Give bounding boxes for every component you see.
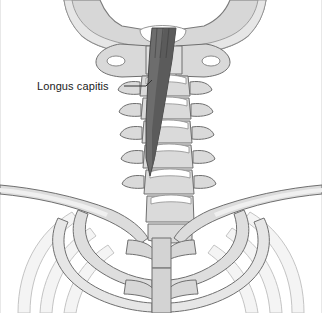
cartilage-left-1: [126, 240, 154, 260]
sternum-body: [152, 268, 171, 313]
sternum-manubrium: [152, 238, 171, 268]
atlas-right-foramen: [202, 56, 220, 66]
atlas-left-foramen: [107, 56, 125, 66]
label-longus-capitis-text: Longus capitis: [37, 80, 109, 92]
vertebra-c6: [122, 169, 216, 194]
vertebra-c3: [119, 97, 213, 119]
vertebra-c4: [120, 120, 214, 143]
anatomy-drawing: Longus capitis: [0, 0, 322, 313]
vertebra-c5: [121, 144, 215, 168]
anatomical-illustration: Longus capitis: [0, 0, 322, 313]
sternum-group: [152, 238, 171, 313]
